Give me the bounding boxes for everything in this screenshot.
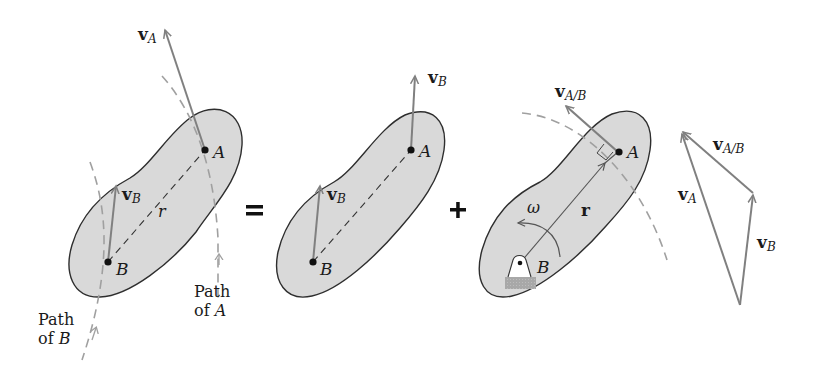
label-va: vA (137, 24, 157, 46)
point-b-dot (104, 258, 111, 265)
label-point-b: B (319, 259, 333, 279)
panel-absolute-motion: vA vB A B r Path of A Path of B (38, 24, 242, 360)
label-r: r (158, 202, 167, 221)
label-triangle-vab: vA/B (712, 134, 745, 156)
label-point-a: A (625, 142, 639, 162)
label-path-of-b-line2: of B (38, 329, 71, 348)
rigid-body (69, 109, 242, 297)
panel-translation: vB vB A B (277, 67, 447, 297)
label-triangle-va: vA (677, 184, 697, 206)
point-b-dot (309, 258, 316, 265)
triangle-vb-vector (740, 195, 753, 305)
label-path-of-a-line1: Path (194, 282, 230, 301)
rigid-body (277, 112, 445, 297)
rigid-body (479, 111, 650, 297)
label-point-b: B (536, 257, 550, 277)
relative-velocity-diagram: vA vB A B r Path of A Path of B vB vB A … (0, 0, 815, 375)
label-point-a: A (417, 141, 431, 161)
label-point-a: A (211, 142, 225, 162)
velocity-triangle: vA/B vA vB (677, 132, 776, 305)
label-omega: ω (527, 198, 540, 217)
panel-rotation: vA/B ω r A B (479, 81, 667, 297)
path-of-b-arrow (92, 328, 96, 340)
label-path-of-b-line1: Path (38, 310, 74, 329)
label-r: r (581, 200, 591, 220)
ground-support (505, 277, 536, 289)
point-a-dot (407, 146, 414, 153)
label-triangle-vb: vB (756, 232, 776, 254)
label-path-of-a-line2: of A (194, 301, 226, 320)
point-a-dot (201, 146, 208, 153)
equals-operator (246, 205, 263, 216)
plus-operator (450, 202, 466, 218)
label-vab: vA/B (554, 81, 587, 103)
label-point-b: B (115, 259, 129, 279)
label-vb-top: vB (427, 67, 447, 89)
pin-b (518, 261, 523, 266)
triangle-va-vector (682, 134, 740, 305)
point-a-dot (615, 148, 622, 155)
